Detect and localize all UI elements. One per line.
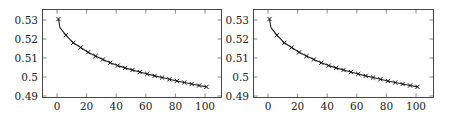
- line-chart-right: 0204060801000.490.50.510.520.53: [211, 0, 435, 116]
- x-tick-label: 80: [169, 100, 182, 112]
- y-tick-label: 0.53: [226, 14, 249, 26]
- x-marker-icon: [304, 54, 308, 58]
- y-tick-label: 0.49: [226, 90, 249, 102]
- data-line: [58, 19, 206, 87]
- y-tick-label: 0.53: [15, 14, 38, 26]
- x-tick-label: 40: [321, 100, 334, 112]
- x-marker-icon: [93, 54, 97, 58]
- x-marker-icon: [101, 57, 105, 61]
- x-tick-label: 60: [350, 100, 363, 112]
- x-marker-icon: [275, 33, 279, 37]
- x-marker-icon: [290, 45, 294, 49]
- x-tick-label: 80: [380, 100, 393, 112]
- x-tick-label: 20: [80, 100, 93, 112]
- y-tick-label: 0.52: [15, 33, 38, 45]
- y-tick-label: 0.5: [21, 71, 38, 83]
- x-marker-icon: [86, 50, 90, 54]
- y-tick-label: 0.52: [226, 33, 249, 45]
- y-tick-label: 0.49: [15, 90, 38, 102]
- x-marker-icon: [297, 50, 301, 54]
- y-tick-label: 0.5: [232, 71, 249, 83]
- x-tick-label: 100: [406, 100, 426, 112]
- x-tick-label: 0: [265, 100, 272, 112]
- y-tick-label: 0.51: [15, 52, 38, 64]
- x-tick-label: 0: [54, 100, 61, 112]
- x-tick-label: 40: [110, 100, 123, 112]
- y-tick-label: 0.51: [226, 52, 249, 64]
- chart-right-svg: 0204060801000.490.50.510.520.53: [211, 0, 449, 116]
- x-marker-icon: [71, 41, 75, 45]
- x-tick-label: 20: [291, 100, 304, 112]
- x-tick-label: 60: [139, 100, 152, 112]
- x-marker-icon: [79, 45, 83, 49]
- chart-left-svg: 0204060801000.490.50.510.520.53: [0, 0, 224, 116]
- x-marker-icon: [64, 33, 68, 37]
- x-marker-icon: [312, 57, 316, 61]
- x-marker-icon: [282, 41, 286, 45]
- data-line: [269, 19, 417, 87]
- line-chart-left: 0204060801000.490.50.510.520.53: [0, 0, 224, 116]
